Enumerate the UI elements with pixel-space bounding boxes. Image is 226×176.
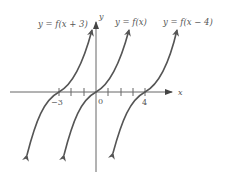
label-f-x-plus-3: y = f(x + 3) (37, 19, 88, 29)
shifted-functions-graph: y = f(x + 3) y = f(x) y = f(x − 4) y x −… (0, 0, 226, 176)
tick-label-0: 0 (98, 97, 103, 106)
label-f-x-minus-4: y = f(x − 4) (162, 17, 213, 27)
label-f-x: y = f(x) (114, 17, 147, 27)
y-axis-label: y (98, 12, 104, 21)
tick-label-4: 4 (142, 98, 147, 107)
tick-label-neg3: −3 (51, 98, 63, 107)
x-axis-label: x (178, 88, 183, 97)
